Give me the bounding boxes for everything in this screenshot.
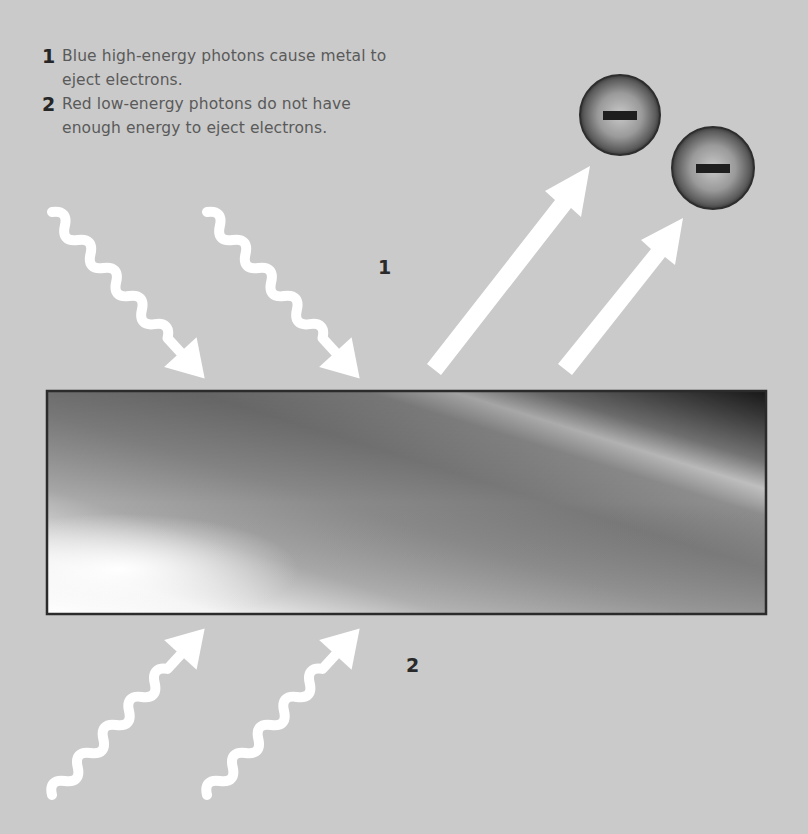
legend-number: 2	[42, 92, 62, 116]
ejection-arrow-2	[558, 218, 683, 375]
legend-number: 1	[42, 44, 62, 68]
photon-arrow-top-1	[36, 197, 221, 393]
label-case-2: 2	[406, 655, 419, 675]
legend-item-2: 2 Red low-energy photons do not have eno…	[42, 92, 402, 140]
electron-2	[672, 127, 754, 209]
metal-plate	[47, 391, 766, 614]
photon-arrow-bottom-2	[191, 614, 376, 810]
photon-arrow-top-2	[191, 197, 376, 393]
legend-item-1: 1 Blue high-energy photons cause metal t…	[42, 44, 402, 92]
legend-text: Red low-energy photons do not have enoug…	[62, 92, 402, 140]
minus-icon	[603, 111, 637, 120]
photon-arrow-bottom-1	[36, 614, 221, 810]
legend-text: Blue high-energy photons cause metal to …	[62, 44, 402, 92]
ejection-arrow-1	[427, 166, 590, 375]
electron-1	[580, 75, 660, 155]
minus-icon	[696, 164, 730, 173]
legend: 1 Blue high-energy photons cause metal t…	[42, 44, 402, 140]
label-case-1: 1	[378, 257, 391, 277]
